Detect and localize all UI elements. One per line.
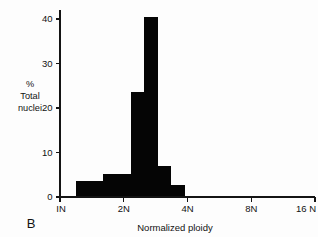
histogram-bar <box>158 166 172 197</box>
panel-label: B <box>27 216 36 231</box>
y-axis-ticks: 010203040 <box>42 13 60 202</box>
chart-axes <box>60 10 315 197</box>
y-axis-label-line-1: Total <box>20 91 39 101</box>
y-tick-label: 10 <box>42 147 53 158</box>
figure-panel-b: 010203040 IN2N4N8N16 N % Total nuclei No… <box>0 0 318 237</box>
x-tick-label: 2N <box>118 203 130 214</box>
histogram-bar <box>90 181 104 197</box>
x-tick-label: IN <box>56 203 66 214</box>
histogram-bar <box>103 174 117 197</box>
x-axis-ticks: IN2N4N8N16 N <box>56 197 316 214</box>
y-tick-label: 20 <box>42 102 53 113</box>
histogram-bars <box>76 17 185 197</box>
x-axis-title: Normalized ploidy <box>137 222 213 233</box>
histogram-bar <box>131 92 144 197</box>
ploidy-histogram-chart: 010203040 IN2N4N8N16 N % Total nuclei No… <box>0 0 318 237</box>
y-axis-label-line-2: nuclei <box>18 103 42 113</box>
histogram-bar <box>144 17 158 197</box>
x-tick-label: 16 N <box>296 203 316 214</box>
x-tick-label: 8N <box>245 203 257 214</box>
y-tick-label: 30 <box>42 58 53 69</box>
x-tick-label: 4N <box>181 203 193 214</box>
histogram-bar <box>76 181 90 197</box>
histogram-bar <box>117 174 131 197</box>
y-tick-label: 0 <box>47 191 52 202</box>
y-axis-label: % Total nuclei <box>18 79 42 113</box>
y-tick-label: 40 <box>42 13 53 24</box>
y-axis-label-line-0: % <box>26 79 34 89</box>
histogram-bar <box>171 185 185 197</box>
